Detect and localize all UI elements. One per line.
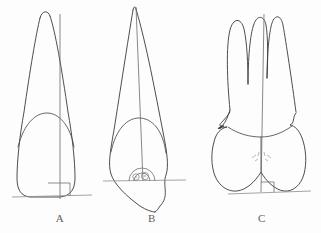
tooth-diagram-board: A B bbox=[0, 0, 321, 233]
panel-c-root-3 bbox=[267, 17, 296, 112]
panel-b-group: B bbox=[103, 7, 186, 224]
panel-c-crown-outline bbox=[212, 112, 306, 191]
panel-c-root-1 bbox=[227, 20, 248, 110]
panel-a-cervical-line bbox=[18, 113, 74, 147]
panel-a-label: A bbox=[56, 212, 64, 224]
panel-c-baseline bbox=[228, 191, 311, 194]
panel-c-group: C bbox=[212, 14, 311, 224]
panel-c-right-angle-marker bbox=[261, 182, 274, 192]
panel-a-root-apex bbox=[40, 12, 50, 18]
panel-b-tooth-outline-right bbox=[136, 9, 167, 212]
panel-b-cervical-dot-right-center bbox=[144, 175, 145, 176]
panel-c-cervical-line bbox=[228, 126, 292, 137]
panel-b-tooth-outline-left bbox=[110, 10, 155, 212]
panel-b-cervical-line bbox=[111, 118, 166, 153]
panel-a-tooth-outline-left bbox=[17, 16, 75, 197]
panel-b-root-apex bbox=[133, 7, 136, 10]
panel-c-label: C bbox=[258, 212, 266, 224]
figure-root: A B bbox=[0, 0, 321, 233]
panel-a-group: A bbox=[12, 12, 92, 224]
panel-a-right-angle-marker bbox=[48, 183, 70, 196]
panel-b-label: B bbox=[148, 212, 156, 224]
panel-c-long-axis bbox=[261, 14, 264, 192]
panel-b-cervical-dot-left-center bbox=[135, 176, 136, 177]
panel-c-root-2 bbox=[248, 17, 268, 84]
panel-b-baseline bbox=[103, 180, 186, 181]
